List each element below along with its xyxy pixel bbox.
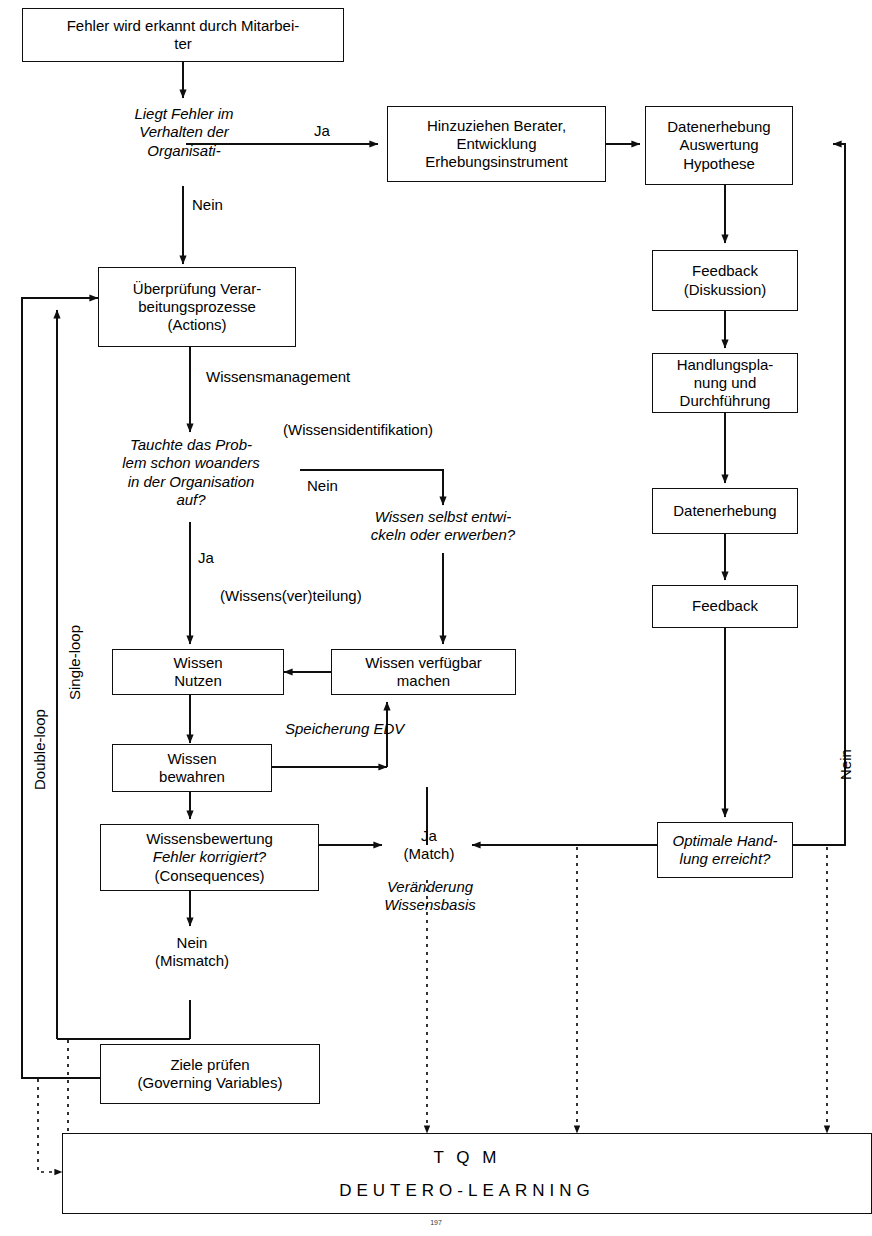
edge-label-ja-tauchte: Ja	[198, 549, 238, 567]
edge-label-nein-top: Nein	[192, 196, 252, 214]
edge-label-ja-top: Ja	[302, 122, 342, 140]
box-hinzuziehen-berater: Hinzuziehen Berater, Entwicklung Erhebun…	[387, 106, 606, 182]
box-wissen-verfuegbar-label: Wissen verfügbar machen	[365, 654, 482, 691]
box-wissensbewertung-line2: Fehler korrigiert?	[153, 848, 266, 866]
page-number: 197	[416, 1219, 456, 1226]
box-ueberpruefung-verarbeitungsprozesse: Überprüfung Verar- beitungsprozesse (Act…	[98, 267, 296, 347]
box-fehler-erkannt: Fehler wird erkannt durch Mitarbei- ter	[22, 8, 344, 62]
box-deutero-learning-label: DEUTERO-LEARNING	[63, 1181, 871, 1201]
box-handlungsplanung: Handlungspla- nung und Durchführung	[652, 353, 798, 413]
box-wissen-bewahren-label: Wissen bewahren	[159, 750, 225, 787]
edge-label-wissensverteilung: (Wissens(ver)teilung)	[220, 587, 470, 605]
decision-liegt-fehler: Liegt Fehler im Verhalten der Organisati…	[98, 105, 270, 160]
box-wissen-nutzen: Wissen Nutzen	[112, 649, 284, 695]
decision-wissen-selbst-entwickeln: Wissen selbst entwi- ckeln oder erwerben…	[325, 508, 561, 545]
box-wissen-nutzen-label: Wissen Nutzen	[173, 654, 222, 691]
flowchart-page: Fehler wird erkannt durch Mitarbei- ter …	[0, 0, 872, 1236]
edge-label-nein-identifikation: Nein	[307, 477, 367, 495]
decision-tauchte-problem: Tauchte das Prob- lem schon woanders in …	[83, 436, 299, 509]
box-handlungsplanung-label: Handlungspla- nung und Durchführung	[677, 356, 774, 411]
edge-label-nein-mismatch: Nein (Mismatch)	[145, 934, 239, 971]
box-wissen-bewahren: Wissen bewahren	[112, 744, 272, 792]
box-feedback-diskussion: Feedback (Diskussion)	[652, 250, 798, 311]
box-ziele-pruefen-label: Ziele prüfen (Governing Variables)	[138, 1056, 283, 1093]
loop-label-double-loop: Double-loop	[31, 709, 48, 790]
edge-label-wissensmanagement: Wissensmanagement	[206, 368, 436, 386]
box-fehler-erkannt-label: Fehler wird erkannt durch Mitarbei- ter	[67, 17, 300, 54]
edge-label-nein-right: Nein	[837, 749, 854, 780]
box-wissensbewertung-line3: (Consequences)	[154, 867, 264, 885]
box-optimale-handlung: Optimale Hand- lung erreicht?	[657, 822, 793, 878]
edge-label-wissensidentifikation: (Wissensidentifikation)	[283, 421, 499, 439]
edge-label-veraenderung-wissensbasis: Veränderung Wissensbasis	[356, 878, 504, 915]
box-wissensbewertung: Wissensbewertung Fehler korrigiert? (Con…	[100, 824, 319, 891]
box-hinzuziehen-label: Hinzuziehen Berater, Entwicklung Erhebun…	[425, 117, 568, 172]
box-wissensbewertung-line1: Wissensbewertung	[146, 830, 273, 848]
box-feedback: Feedback	[652, 585, 798, 628]
box-datenerhebung: Datenerhebung	[652, 488, 798, 534]
box-datenerhebung-auswertung-label: Datenerhebung Auswertung Hypothese	[667, 118, 770, 173]
box-datenerhebung-auswertung: Datenerhebung Auswertung Hypothese	[645, 106, 793, 185]
box-ziele-pruefen: Ziele prüfen (Governing Variables)	[100, 1044, 320, 1104]
box-feedback-label: Feedback	[692, 597, 758, 615]
box-ueberpruefung-label: Überprüfung Verar- beitungsprozesse (Act…	[133, 280, 261, 335]
box-datenerhebung-label: Datenerhebung	[673, 502, 776, 520]
loop-label-single-loop: Single-loop	[66, 625, 83, 700]
box-optimale-handlung-label: Optimale Hand- lung erreicht?	[672, 832, 777, 869]
box-feedback-diskussion-label: Feedback (Diskussion)	[684, 262, 767, 299]
box-tqm-label: T Q M	[63, 1148, 871, 1168]
box-wissen-verfuegbar-machen: Wissen verfügbar machen	[331, 649, 516, 695]
edge-label-speicherung-edv: Speicherung EDV	[285, 720, 485, 738]
box-tqm-deutero-learning: T Q M DEUTERO-LEARNING	[62, 1133, 872, 1214]
edge-label-ja-match: Ja (Match)	[387, 827, 471, 864]
